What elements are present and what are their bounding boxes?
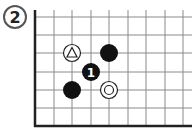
black-stone-move-1: 1 xyxy=(82,63,100,81)
go-diagram: 2 1 xyxy=(0,0,195,136)
diagram-number-badge: 2 xyxy=(4,6,26,28)
move-number: 1 xyxy=(87,66,95,80)
diagram-number: 2 xyxy=(9,8,20,27)
black-stone xyxy=(100,44,118,62)
white-stone-circle xyxy=(101,82,118,99)
board-grid xyxy=(35,10,192,126)
board-edges xyxy=(34,10,192,127)
white-stone-triangle xyxy=(64,45,81,62)
black-stone xyxy=(63,81,81,99)
